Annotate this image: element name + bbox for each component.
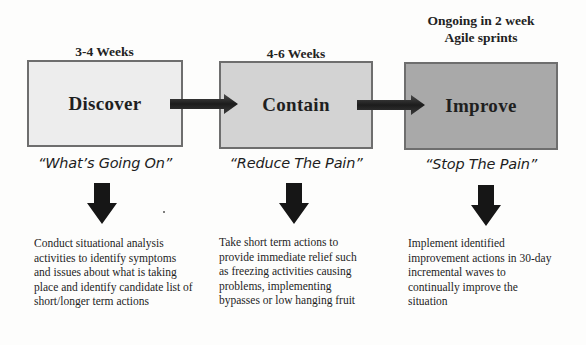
- discover-box: Discover: [27, 60, 183, 147]
- contain-description: Take short term actions to provide immed…: [219, 235, 367, 308]
- contain-tagline: “Reduce The Pain”: [219, 155, 373, 171]
- right-arrow-icon: [355, 93, 427, 117]
- contain-label: Contain: [262, 94, 330, 116]
- discover-tagline: “What’s Going On”: [27, 155, 183, 171]
- improve-label: Improve: [445, 95, 516, 117]
- improve-box: Improve: [404, 62, 558, 150]
- contain-duration: 4-6 Weeks: [219, 45, 373, 62]
- improve-tagline: “Stop The Pain”: [404, 156, 558, 172]
- scan-speck: [163, 211, 165, 213]
- down-arrow-icon: [470, 185, 502, 227]
- improve-duration-line1: Ongoing in 2 week: [404, 12, 558, 29]
- discover-label: Discover: [68, 93, 141, 115]
- contain-box: Contain: [219, 61, 373, 149]
- discover-duration: 3-4 Weeks: [27, 43, 182, 60]
- down-arrow-icon: [278, 183, 310, 225]
- improve-duration-line2: Agile sprints: [404, 29, 558, 46]
- improve-duration: Ongoing in 2 week Agile sprints: [404, 12, 558, 46]
- improve-description: Implement identified improvement actions…: [408, 236, 556, 309]
- down-arrow-icon: [86, 183, 118, 225]
- right-arrow-icon: [168, 92, 240, 116]
- discover-description: Conduct situational analysis activities …: [34, 236, 194, 309]
